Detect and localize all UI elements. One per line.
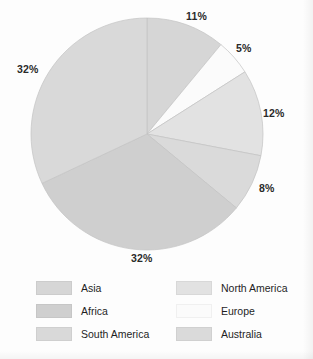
pie-chart-page: 11% 5% 12% 8% 32% 32% AsiaNorth AmericaA… — [0, 0, 313, 359]
legend-item-europe[interactable]: Europe — [176, 299, 286, 322]
legend-swatch-icon — [36, 281, 72, 295]
legend-label: Europe — [221, 305, 255, 317]
pie-chart: 11% 5% 12% 8% 32% 32% — [0, 0, 313, 262]
legend-label: North America — [221, 282, 288, 294]
pie-chart-svg — [0, 0, 313, 262]
legend-item-south-america[interactable]: South America — [36, 322, 176, 345]
slice-percent-label-africa: 32% — [131, 252, 153, 264]
legend-item-north-america[interactable]: North America — [176, 276, 286, 299]
slice-percent-label-asia: 11% — [186, 10, 207, 22]
legend-swatch-icon — [176, 304, 212, 318]
legend-item-australia[interactable]: Australia — [176, 322, 286, 345]
slice-percent-label-north-america: 12% — [263, 107, 285, 119]
chart-legend: AsiaNorth AmericaAfricaEuropeSouth Ameri… — [36, 276, 286, 345]
legend-swatch-icon — [176, 327, 212, 341]
slice-percent-label-australia: 8% — [259, 182, 275, 194]
legend-swatch-icon — [36, 304, 72, 318]
legend-item-africa[interactable]: Africa — [36, 299, 176, 322]
legend-swatch-icon — [36, 327, 72, 341]
legend-label: Asia — [81, 282, 101, 294]
slice-percent-label-europe: 5% — [236, 42, 252, 54]
legend-swatch-icon — [176, 281, 212, 295]
legend-label: Africa — [81, 305, 108, 317]
pie-slice-group — [31, 18, 263, 250]
scan-edge-shading-bottom — [0, 351, 313, 359]
legend-label: Australia — [221, 328, 262, 340]
legend-label: South America — [81, 328, 149, 340]
slice-percent-label-south-america: 32% — [17, 63, 39, 75]
legend-item-asia[interactable]: Asia — [36, 276, 176, 299]
